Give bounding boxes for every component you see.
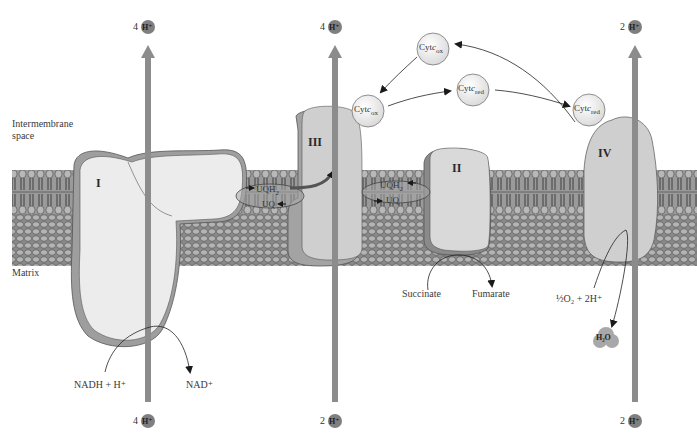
svg-text:2: 2: [620, 21, 625, 32]
svg-text:4: 4: [133, 21, 138, 32]
oxygen-label: ½O₂ + 2H⁺: [556, 293, 602, 304]
svg-text:2: 2: [620, 415, 625, 426]
intermembrane-label-2: space: [12, 130, 35, 141]
svg-text:2: 2: [320, 415, 325, 426]
fumarate-label: Fumarate: [472, 288, 510, 299]
svg-text:H⁺: H⁺: [329, 417, 339, 426]
cytc-red-near-iv: Cytcred: [573, 94, 605, 126]
nad-label: NAD⁺: [186, 379, 213, 390]
proton-bottom-iii: 2 H⁺: [320, 414, 342, 428]
matrix-label: Matrix: [12, 267, 39, 278]
proton-top-i: 4 H⁺: [133, 20, 155, 34]
svg-text:H⁺: H⁺: [629, 23, 639, 32]
proton-bottom-iv: 2 H⁺: [620, 414, 642, 428]
etc-diagram: Intermembrane space Matrix I III II IV U…: [0, 0, 697, 440]
svg-text:H⁺: H⁺: [629, 417, 639, 426]
water-molecule: H₂O: [593, 327, 619, 348]
cytc-red-middle: Cytcred: [457, 74, 489, 106]
uq-left-label: UQ: [262, 199, 275, 209]
complex-ii-label: II: [452, 161, 462, 175]
cytc-ox-top: Cytcox: [417, 33, 449, 65]
svg-text:4: 4: [320, 21, 325, 32]
proton-top-iii: 4 H⁺: [320, 20, 342, 34]
complex-iv-label: IV: [598, 146, 612, 160]
svg-text:4: 4: [133, 415, 138, 426]
nadh-label: NADH + H⁺: [74, 379, 126, 390]
svg-text:H⁺: H⁺: [142, 417, 152, 426]
succinate-label: Succinate: [402, 288, 441, 299]
svg-text:H⁺: H⁺: [142, 23, 152, 32]
intermembrane-label-1: Intermembrane: [12, 118, 74, 129]
complex-i-label: I: [96, 176, 101, 190]
complex-iv: IV: [584, 117, 658, 262]
uq-right-label: UQ: [386, 195, 399, 205]
proton-top-iv: 2 H⁺: [620, 20, 642, 34]
complex-iii-label: III: [308, 135, 322, 149]
complex-ii: II: [424, 148, 491, 255]
water-label: H₂O: [596, 333, 611, 342]
complex-iii: III: [288, 106, 362, 266]
proton-bottom-i: 4 H⁺: [133, 414, 155, 428]
cytc-ox-near-iii: Cytcox: [352, 95, 384, 127]
svg-text:H⁺: H⁺: [329, 23, 339, 32]
